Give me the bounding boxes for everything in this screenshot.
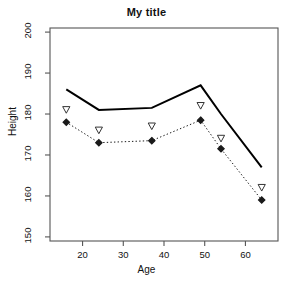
x-tick-label: 30 <box>110 249 136 260</box>
plot-canvas <box>0 0 293 285</box>
data-point-diamond <box>63 119 69 125</box>
y-tick-label: 150 <box>22 218 33 252</box>
y-tick-label: 180 <box>22 96 33 130</box>
data-point-diamond <box>149 138 155 144</box>
data-point-triangle <box>197 103 204 110</box>
chart-figure: My title Height Age 20019018017016015020… <box>0 0 293 285</box>
x-tick-label: 50 <box>192 249 218 260</box>
y-tick-label: 200 <box>22 14 33 48</box>
data-point-diamond <box>198 117 204 123</box>
data-point-triangle <box>258 184 265 191</box>
data-point-triangle <box>63 107 70 114</box>
data-point-triangle <box>217 135 224 142</box>
data-point-triangle <box>95 127 102 134</box>
y-tick-label: 190 <box>22 55 33 89</box>
y-tick-label: 170 <box>22 136 33 170</box>
x-tick-label: 40 <box>151 249 177 260</box>
x-tick-label: 20 <box>70 249 96 260</box>
y-tick-label: 160 <box>22 177 33 211</box>
plot-frame <box>50 28 278 241</box>
x-tick-label: 60 <box>232 249 258 260</box>
series-line-dotted-line-diamond <box>66 120 261 200</box>
data-point-diamond <box>218 146 224 152</box>
data-point-diamond <box>96 140 102 146</box>
series-line-solid-line <box>66 85 261 167</box>
data-point-triangle <box>148 123 155 130</box>
